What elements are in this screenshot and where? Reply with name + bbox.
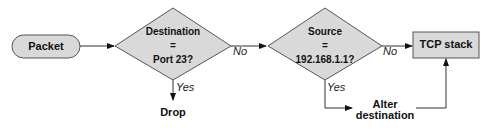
alter-line2: destination (352, 110, 418, 121)
drop-node-label: Drop (150, 106, 196, 119)
src-check-line2: = (275, 39, 375, 53)
edge-label-src-no: No (383, 45, 397, 57)
tcp-stack-node-label: TCP stack (413, 38, 479, 51)
edge-label-dest-no: No (233, 45, 247, 57)
dest-check-label: Destination = Port 23? (125, 25, 221, 67)
edge-label-src-yes: Yes (327, 81, 345, 93)
packet-node-label: Packet (12, 40, 80, 53)
src-check-line3: 192.168.1.1? (275, 53, 375, 67)
edge-alter-to-tcp (416, 59, 446, 108)
dest-check-line2: = (125, 39, 221, 53)
src-check-line1: Source (275, 25, 375, 39)
dest-check-line3: Port 23? (125, 53, 221, 67)
edge-label-dest-yes: Yes (176, 81, 194, 93)
alter-node-label: Alter destination (352, 99, 418, 121)
dest-check-line1: Destination (125, 25, 221, 39)
src-check-label: Source = 192.168.1.1? (275, 25, 375, 67)
